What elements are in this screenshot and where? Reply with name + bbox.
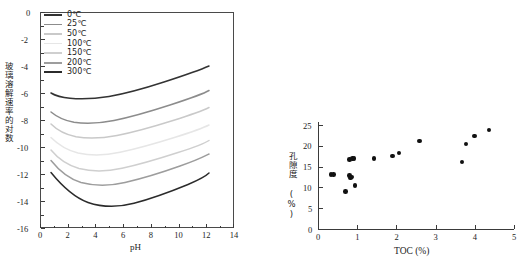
left-ytick--4: -4 <box>21 63 28 72</box>
legend-swatch-icon <box>44 14 62 16</box>
left-xtick-label-12: 12 <box>202 231 211 240</box>
legend-label: 50℃ <box>67 30 86 38</box>
right-ytick-5: 5 <box>308 205 312 214</box>
legend-swatch-icon <box>44 24 62 26</box>
right-xtick-label-4: 4 <box>473 233 477 242</box>
right-xtick-mark <box>475 225 476 229</box>
legend-label: 25℃ <box>67 20 86 28</box>
left-ytick--8: -8 <box>21 117 28 126</box>
scatter-point <box>417 139 422 144</box>
curve-150c <box>51 141 209 171</box>
left-xtick-label-10: 10 <box>174 231 183 240</box>
right-ytick-15: 15 <box>303 163 312 172</box>
right-xtick-label-3: 3 <box>434 233 438 242</box>
scatter-point <box>372 156 377 161</box>
right-ytick-mark <box>319 125 323 126</box>
figure-container: 玻璃溶解速率的对数 0 -2 -4 -6 -8 -10 -12 -14 -16 <box>0 0 526 273</box>
legend-label: 100℃ <box>67 40 91 48</box>
toc-porosity-scatter-chart: 孔隙度 (%) 25 20 15 10 5 0 0 1 2 3 4 5 TOC … <box>263 0 526 273</box>
right-ytick-10: 10 <box>303 184 312 193</box>
left-ytick--6: -6 <box>21 90 28 99</box>
scatter-point <box>343 189 348 194</box>
left-ytick--16: -16 <box>17 225 28 234</box>
scatter-point <box>349 175 354 180</box>
right-xtick-mark <box>318 225 319 229</box>
legend-swatch-icon <box>44 52 62 54</box>
right-y-axis-line <box>318 122 319 230</box>
legend-swatch-icon <box>44 43 62 45</box>
scatter-point <box>390 154 395 159</box>
left-xtick-label-0: 0 <box>38 231 42 240</box>
legend-item-200c: 200℃ <box>44 58 91 68</box>
right-ytick-mark <box>319 229 323 230</box>
legend-item-300c: 300℃ <box>44 68 91 78</box>
glass-dissolution-rate-chart: 玻璃溶解速率的对数 0 -2 -4 -6 -8 -10 -12 -14 -16 <box>0 0 263 273</box>
left-xtick-label-2: 2 <box>66 231 70 240</box>
right-x-axis-line <box>318 229 514 230</box>
right-ytick-25: 25 <box>303 122 312 131</box>
right-xtick-label-5: 5 <box>512 233 516 242</box>
left-xtick-label-6: 6 <box>121 231 125 240</box>
left-xtick-label-8: 8 <box>149 231 153 240</box>
left-ytick--2: -2 <box>21 36 28 45</box>
left-legend: 0℃ 25℃ 50℃ 100℃ 150℃ 200℃ <box>44 10 91 77</box>
left-ytick--12: -12 <box>17 171 28 180</box>
legend-item-50c: 50℃ <box>44 29 91 39</box>
scatter-point <box>487 128 492 133</box>
right-ytick-mark <box>319 146 323 147</box>
right-y-axis-title: 孔隙度 (%) <box>287 152 296 222</box>
scatter-point <box>353 183 358 188</box>
curve-200c <box>51 154 209 185</box>
scatter-point <box>352 156 357 161</box>
legend-swatch-icon <box>44 33 62 35</box>
scatter-point <box>464 142 469 147</box>
right-ytick-20: 20 <box>303 142 312 151</box>
right-xtick-mark <box>396 225 397 229</box>
legend-label: 200℃ <box>67 59 91 67</box>
right-ytick-mark <box>319 208 323 209</box>
left-ytick-mark <box>41 228 45 229</box>
legend-label: 300℃ <box>67 68 91 76</box>
legend-item-0c: 0℃ <box>44 10 91 20</box>
legend-swatch-icon <box>44 62 62 64</box>
scatter-point <box>472 134 477 139</box>
curve-300c <box>51 173 209 207</box>
scatter-point <box>331 172 336 177</box>
curve-25c <box>51 91 209 124</box>
scatter-point <box>460 160 465 165</box>
right-ytick-0: 0 <box>308 226 312 235</box>
right-ytick-mark <box>319 187 323 188</box>
right-xtick-mark <box>436 225 437 229</box>
legend-label: 150℃ <box>67 49 91 57</box>
right-xtick-mark <box>357 225 358 229</box>
left-y-axis-title: 玻璃溶解速率的对数 <box>3 62 12 192</box>
left-ytick--14: -14 <box>17 198 28 207</box>
right-xtick-label-2: 2 <box>394 233 398 242</box>
right-xtick-label-0: 0 <box>316 233 320 242</box>
figure-caption <box>0 265 526 273</box>
left-xtick-label-14: 14 <box>230 231 239 240</box>
right-xtick-mark <box>514 225 515 229</box>
right-xtick-label-1: 1 <box>355 233 359 242</box>
left-ytick--10: -10 <box>17 144 28 153</box>
right-ytick-mark <box>319 167 323 168</box>
right-x-axis-title: TOC (%) <box>394 247 429 257</box>
legend-item-25c: 25℃ <box>44 20 91 30</box>
legend-swatch-icon <box>44 71 62 73</box>
legend-item-100c: 100℃ <box>44 39 91 49</box>
legend-label: 0℃ <box>67 11 81 19</box>
legend-item-150c: 150℃ <box>44 48 91 58</box>
left-xtick-label-4: 4 <box>93 231 97 240</box>
scatter-point <box>397 151 402 156</box>
left-ytick-0: 0 <box>26 9 30 18</box>
left-x-axis-title: pH <box>130 243 141 252</box>
